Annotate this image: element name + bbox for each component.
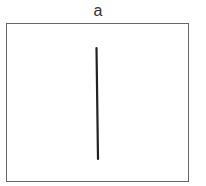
- vertical-line-figure: [0, 0, 206, 186]
- vertical-line: [97, 48, 99, 159]
